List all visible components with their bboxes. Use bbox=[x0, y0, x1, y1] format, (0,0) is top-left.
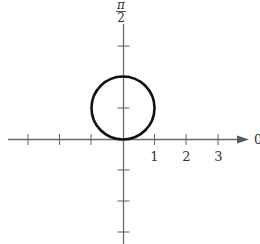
polar-axis-label: 0 bbox=[254, 132, 260, 147]
polar-graph: 1 2 3 0 π 2 bbox=[0, 0, 260, 244]
polar-axis-arrow-icon bbox=[237, 136, 249, 144]
tick-label-1: 1 bbox=[150, 149, 158, 164]
tick-label-2: 2 bbox=[182, 149, 190, 164]
pi-denominator-label: 2 bbox=[117, 11, 125, 25]
tick-label-3: 3 bbox=[214, 149, 222, 164]
